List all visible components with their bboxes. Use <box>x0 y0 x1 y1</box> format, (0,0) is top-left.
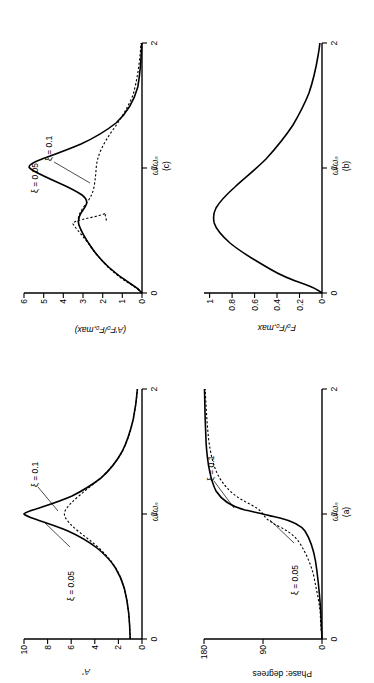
fr-ytick-0p8: 0.8 <box>228 299 237 319</box>
amp-ytick-6: 6 <box>67 645 76 663</box>
amp-xlabel: ω/ωₙ <box>150 497 160 527</box>
force-ratio-curves <box>204 43 322 293</box>
resp-ylabel: (A'F₀/F₀,max) <box>75 325 126 335</box>
resp-ytick-3: 3 <box>79 299 88 317</box>
resp-ytick-0: 0 <box>138 299 147 317</box>
fr-ytick-0: 0 <box>318 299 327 319</box>
phase-xlabel: ω/ωₙ <box>330 497 340 527</box>
panel-force-ratio: 0 0.2 0.4 0.6 0.8 1 0 1 2 ω/ωₙ (b) F₀/F₀… <box>204 5 354 293</box>
phase-ytick-0: 0 <box>318 645 327 663</box>
fr-xtick-2: 2 <box>330 35 339 51</box>
phase-ylabel: Phase: degrees <box>252 669 312 679</box>
amp-xtick-0: 0 <box>150 631 159 647</box>
curve-amp-xi-0p05 <box>24 389 137 639</box>
curve-resp-xi-0p1 <box>73 213 142 293</box>
amp-ytick-2: 2 <box>114 645 123 663</box>
fr-ytick-0p4: 0.4 <box>273 299 282 319</box>
fr-ytick-1: 1 <box>206 299 215 319</box>
fr-ylabel: F₀/F₀,max <box>258 323 296 333</box>
response-curves <box>24 43 142 293</box>
panel-phase: 0 90 180 0 1 2 ω/ωₙ (a) Phase: degrees ξ… <box>204 351 354 639</box>
resp-ytick-1: 1 <box>118 299 127 317</box>
amp-ytick-8: 8 <box>44 645 53 663</box>
figure-grid: 0 90 180 0 1 2 ω/ωₙ (a) Phase: degrees ξ… <box>0 0 374 683</box>
amplification-curves <box>24 389 142 639</box>
curve-xi-0p05 <box>205 389 323 639</box>
resp-ytick-5: 5 <box>40 299 49 317</box>
resp-annot-xi-0p05: ξ = 0.05 <box>30 163 40 193</box>
fr-xtick-0: 0 <box>330 285 339 301</box>
phase-annot-xi-0p05: ξ = 0.05 <box>290 565 300 595</box>
fr-ytick-0p6: 0.6 <box>251 299 260 319</box>
fr-panel-tag: (b) <box>341 154 351 178</box>
phase-curves <box>204 389 322 639</box>
fr-xlabel: ω/ωₙ <box>330 151 340 181</box>
curve-resp-xi-0p05 <box>29 43 142 293</box>
resp-xtick-0: 0 <box>150 285 159 301</box>
phase-panel-tag: (a) <box>341 500 351 524</box>
amp-annot-xi-0p05: ξ = 0.05 <box>66 571 76 601</box>
resp-annot-xi-0p1: ξ = 0.1 <box>44 136 54 161</box>
curve-force-ratio <box>213 43 322 293</box>
resp-ytick-4: 4 <box>59 299 68 317</box>
fr-ytick-0p2: 0.2 <box>296 299 305 319</box>
panel-amplification: 0 2 4 6 8 10 0 1 2 ω/ωₙ A' ξ = 0.05 ξ = … <box>24 351 174 639</box>
amp-ytick-10: 10 <box>20 645 29 666</box>
amp-ylabel: A' <box>83 667 90 677</box>
curve-resp-xi-0p1-main <box>78 43 142 293</box>
figure-rotator: 0 90 180 0 1 2 ω/ωₙ (a) Phase: degrees ξ… <box>0 0 374 683</box>
phase-xtick-0: 0 <box>330 631 339 647</box>
resp-ytick-2: 2 <box>99 299 108 317</box>
resp-xtick-2: 2 <box>150 35 159 51</box>
phase-ytick-90: 90 <box>259 645 268 663</box>
panel-response: 0 1 2 3 4 5 6 0 1 2 ω/ωₙ (c) (A'F₀/F₀,ma… <box>24 5 174 293</box>
resp-ytick-6: 6 <box>20 299 29 317</box>
amp-annot-xi-0p1: ξ = 0.1 <box>30 462 40 487</box>
amp-ytick-0: 0 <box>138 645 147 663</box>
phase-xtick-2: 2 <box>330 381 339 397</box>
phase-ytick-180: 180 <box>200 645 209 667</box>
phase-annot-xi-0p1: ξ = 0.1 <box>206 456 216 481</box>
amp-ytick-4: 4 <box>91 645 100 663</box>
resp-xlabel: ω/ωₙ <box>150 151 160 181</box>
amp-xtick-2: 2 <box>150 381 159 397</box>
resp-panel-tag: (c) <box>161 154 171 178</box>
